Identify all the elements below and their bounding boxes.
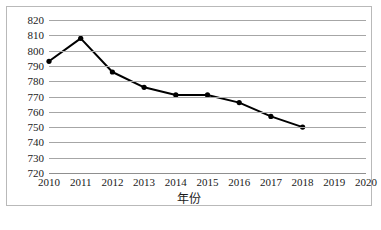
gridline-720 <box>49 173 366 174</box>
y-axis-tick-750: 750 <box>28 122 45 133</box>
x-axis-tick-2012: 2012 <box>101 177 123 188</box>
gridline-750 <box>49 127 366 128</box>
x-axis-tick-2020: 2020 <box>355 177 377 188</box>
gridline-730 <box>49 158 366 159</box>
y-axis-tick-770: 770 <box>28 91 45 102</box>
data-point-2010 <box>46 59 51 64</box>
y-axis-tick-810: 810 <box>28 30 45 41</box>
y-axis-tick-780: 780 <box>28 76 45 87</box>
gridline-760 <box>49 112 366 113</box>
x-axis-tick-2018: 2018 <box>292 177 314 188</box>
chart-frame: 820810800790780770760750740730720 201020… <box>6 6 372 206</box>
x-axis-tick-2011: 2011 <box>70 177 92 188</box>
data-point-2012 <box>110 69 115 74</box>
x-axis-tick-2015: 2015 <box>197 177 219 188</box>
gridline-780 <box>49 81 366 82</box>
gridline-790 <box>49 66 366 67</box>
data-point-2013 <box>142 85 147 90</box>
x-axis-tick-2016: 2016 <box>228 177 250 188</box>
y-axis-tick-740: 740 <box>28 137 45 148</box>
data-point-2016 <box>237 100 242 105</box>
series-line-series-1 <box>49 38 303 127</box>
gridline-740 <box>49 142 366 143</box>
x-axis-tick-2014: 2014 <box>165 177 187 188</box>
x-axis-title: 年份 <box>7 193 371 205</box>
plot-area: 820810800790780770760750740730720 <box>49 20 366 173</box>
gridline-810 <box>49 35 366 36</box>
x-axis-tick-2019: 2019 <box>323 177 345 188</box>
y-axis-tick-790: 790 <box>28 60 45 71</box>
y-axis-tick-730: 730 <box>28 152 45 163</box>
gridline-820 <box>49 20 366 21</box>
x-axis-tick-labels: 2010201120122013201420152016201720182019… <box>49 177 366 193</box>
gridline-770 <box>49 97 366 98</box>
data-point-2011 <box>78 36 83 41</box>
y-axis-tick-760: 760 <box>28 106 45 117</box>
y-axis-tick-820: 820 <box>28 15 45 26</box>
gridline-800 <box>49 51 366 52</box>
x-axis-tick-2010: 2010 <box>38 177 60 188</box>
x-axis-tick-2013: 2013 <box>133 177 155 188</box>
data-point-2017 <box>268 114 273 119</box>
x-axis-tick-2017: 2017 <box>260 177 282 188</box>
y-axis-tick-800: 800 <box>28 45 45 56</box>
